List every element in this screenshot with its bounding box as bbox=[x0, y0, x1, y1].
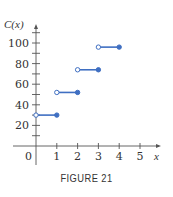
tick-labels: 1234520406080100 bbox=[8, 37, 144, 163]
series-c-of-x bbox=[34, 45, 122, 117]
open-endpoint bbox=[55, 90, 59, 94]
open-endpoint bbox=[75, 68, 79, 72]
ticks bbox=[32, 33, 140, 149]
y-tick-label: 20 bbox=[15, 119, 29, 132]
x-tick-label: 3 bbox=[95, 150, 102, 163]
x-axis-label: x bbox=[153, 150, 159, 162]
open-endpoint bbox=[34, 113, 38, 117]
x-axis-arrow-icon bbox=[156, 144, 161, 148]
x-tick-label: 5 bbox=[137, 150, 144, 163]
y-tick-label: 100 bbox=[8, 37, 29, 50]
closed-endpoint bbox=[117, 45, 121, 49]
x-tick-label: 2 bbox=[74, 150, 81, 163]
y-tick-label: 40 bbox=[15, 99, 29, 112]
closed-endpoint bbox=[55, 113, 59, 117]
y-axis-label: C(x) bbox=[4, 18, 24, 31]
origin-label: 0 bbox=[25, 150, 32, 163]
x-tick-label: 4 bbox=[116, 150, 123, 163]
x-tick-label: 1 bbox=[53, 150, 60, 163]
y-tick-label: 60 bbox=[15, 78, 29, 91]
step-function-chart: 1234520406080100 C(x) x 0 bbox=[0, 0, 173, 197]
closed-endpoint bbox=[96, 68, 100, 72]
figure-caption: FIGURE 21 bbox=[13, 172, 160, 184]
closed-endpoint bbox=[75, 90, 79, 94]
y-tick-label: 80 bbox=[15, 58, 29, 71]
y-axis-arrow-icon bbox=[34, 24, 38, 29]
open-endpoint bbox=[96, 45, 100, 49]
